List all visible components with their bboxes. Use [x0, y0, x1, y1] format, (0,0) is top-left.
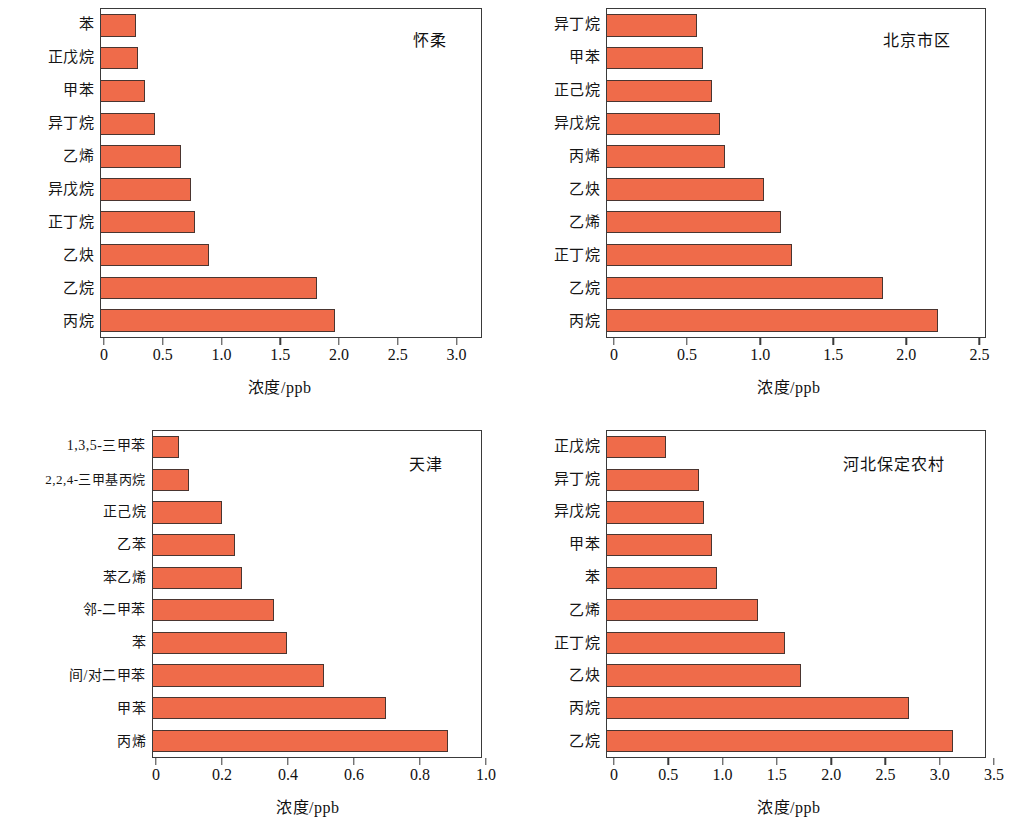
x-axis-tick-label: 0.4 — [278, 766, 298, 784]
x-axis-tick — [280, 338, 281, 345]
y-axis-tick-label: 乙烷 — [506, 725, 600, 758]
plot-area: 异丁烷甲苯正己烷异戊烷丙烯乙炔乙烯正丁烷乙烷丙烷北京市区 — [506, 8, 994, 338]
x-axis-tick — [993, 758, 994, 765]
bar-row — [607, 594, 985, 627]
y-axis-tick-labels: 异丁烷甲苯正己烷异戊烷丙烯乙炔乙烯正丁烷乙烷丙烷 — [506, 8, 606, 338]
bar-row — [607, 496, 985, 529]
y-axis-tick-label: 乙烯 — [506, 206, 600, 239]
bar-row — [153, 724, 481, 757]
bar-row — [607, 239, 985, 272]
y-axis-tick-labels: 苯正戊烷甲苯异丁烷乙烯异戊烷正丁烷乙炔乙烷丙烷 — [0, 8, 100, 338]
x-axis-tick — [162, 338, 163, 345]
y-axis-tick-label: 甲苯 — [506, 41, 600, 74]
x-axis-tick-label: 1.0 — [750, 346, 770, 364]
bar — [607, 469, 699, 491]
x-axis-tick-label: 3.5 — [984, 766, 1004, 784]
y-axis-tick-label: 苯 — [0, 627, 146, 660]
x-axis-tick-label: 0.5 — [677, 346, 697, 364]
bar — [607, 178, 764, 200]
bar — [153, 567, 242, 589]
bar — [153, 501, 222, 523]
bar — [607, 599, 758, 621]
y-axis-tick-label: 异戊烷 — [0, 173, 94, 206]
bar — [607, 14, 697, 36]
x-axis-tick — [833, 338, 834, 345]
x-axis-tick — [830, 758, 831, 765]
bar-row — [101, 239, 481, 272]
x-axis-tick-label: 1.0 — [476, 766, 496, 784]
x-axis-tick — [979, 338, 980, 345]
bar — [153, 697, 386, 719]
x-axis-tick — [221, 338, 222, 345]
bar — [607, 697, 909, 719]
y-axis-tick-label: 乙炔 — [506, 660, 600, 693]
y-axis-tick-label: 异丁烷 — [0, 107, 94, 140]
x-axis-tick — [103, 338, 104, 345]
y-axis-tick-label: 丙烷 — [0, 305, 94, 338]
bar — [607, 501, 704, 523]
bar-row — [101, 206, 481, 239]
bar — [101, 80, 145, 102]
bar — [153, 469, 189, 491]
bar-series — [153, 431, 481, 757]
chart-panel-hebei-baoding-rural: 正戊烷异丁烷异戊烷甲苯苯乙烯正丁烷乙炔丙烷乙烷河北保定农村00.51.01.52… — [506, 420, 1013, 827]
x-axis-tick-label: 0.8 — [410, 766, 430, 784]
y-axis-tick-label: 乙烷 — [506, 272, 600, 305]
x-axis-tick-label: 2.0 — [896, 346, 916, 364]
bar-row — [607, 107, 985, 140]
plot-frame: 河北保定农村 — [606, 430, 986, 758]
x-axis-title: 浓度/ppb — [276, 794, 339, 818]
x-axis-tick — [353, 758, 354, 765]
y-axis-tick-label: 正丁烷 — [506, 239, 600, 272]
x-axis-title: 浓度/ppb — [248, 374, 311, 398]
bar — [101, 244, 209, 266]
bar — [607, 567, 717, 589]
x-axis-tick-label: 0.2 — [212, 766, 232, 784]
bar — [607, 80, 712, 102]
x-axis-tick-label: 0.6 — [344, 766, 364, 784]
bar — [607, 309, 938, 331]
y-axis-tick-label: 丙烯 — [506, 140, 600, 173]
bar — [101, 277, 317, 299]
bar-row — [607, 529, 985, 562]
bar — [607, 436, 666, 458]
bar-row — [607, 627, 985, 660]
bar — [607, 730, 953, 752]
bar-row — [153, 627, 481, 660]
y-axis-tick-label: 正戊烷 — [0, 41, 94, 74]
bar-row — [607, 304, 985, 337]
bar — [607, 211, 781, 233]
bar — [153, 632, 287, 654]
x-axis-tick — [287, 758, 288, 765]
x-axis-title: 浓度/ppb — [757, 794, 820, 818]
bar — [607, 113, 720, 135]
y-axis-tick-label: 乙烯 — [0, 140, 94, 173]
x-axis-tick — [155, 758, 156, 765]
chart-panel-tianjin: 1,3,5-三甲苯2,2,4-三甲基丙烷正己烷乙苯苯乙烯邻-二甲苯苯间/对二甲苯… — [0, 420, 506, 827]
bar — [153, 664, 324, 686]
x-axis-tick-label: 1.5 — [823, 346, 843, 364]
x-axis-tick — [885, 758, 886, 765]
bar-row — [101, 107, 481, 140]
plot-frame: 天津 — [152, 430, 482, 758]
plot-frame: 北京市区 — [606, 8, 986, 338]
y-axis-tick-label: 丙烷 — [506, 692, 600, 725]
bar — [101, 211, 195, 233]
y-axis-tick-label: 苯 — [0, 8, 94, 41]
x-axis-tick — [613, 758, 614, 765]
bar-row — [101, 173, 481, 206]
x-axis-tick-label: 0 — [152, 766, 160, 784]
bar-row — [607, 206, 985, 239]
x-axis-tick — [939, 758, 940, 765]
x-axis-tick — [456, 338, 457, 345]
x-axis-tick-label: 3.0 — [447, 346, 467, 364]
figure-grid: 苯正戊烷甲苯异丁烷乙烯异戊烷正丁烷乙炔乙烷丙烷怀柔00.51.01.52.02.… — [0, 0, 1013, 827]
panel-region-title: 天津 — [409, 451, 443, 475]
bar — [607, 145, 725, 167]
x-axis-tick-label: 1.0 — [713, 766, 733, 784]
bar-row — [607, 173, 985, 206]
x-axis-tick-label: 2.0 — [821, 766, 841, 784]
bar-row — [153, 659, 481, 692]
bar-series — [607, 9, 985, 337]
x-axis-tick — [759, 338, 760, 345]
